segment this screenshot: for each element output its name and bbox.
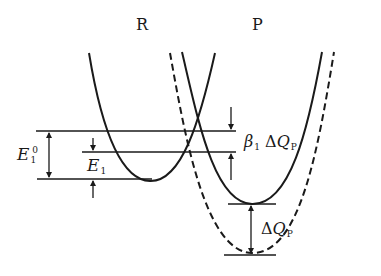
e1-label: E1 [87,157,106,174]
product-label: P [252,17,263,33]
reactant-label: R [136,17,148,33]
energy-diagram: R P E10 E1 β1 ΔQP ΔQP [0,0,381,276]
delta-qp-label: ΔQP [261,221,293,237]
reactant-curve [89,53,215,181]
diagram-graphics [0,0,381,276]
beta-delta-qp-label: β1 ΔQP [244,134,297,150]
product-curve [182,52,322,204]
e1-zero-label: E10 [17,146,38,163]
